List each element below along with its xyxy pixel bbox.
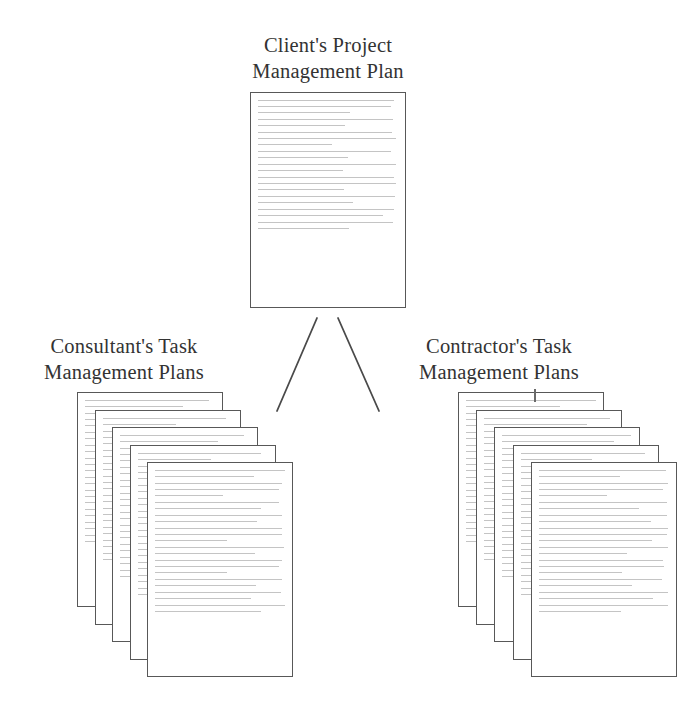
text-line xyxy=(539,502,667,503)
text-line xyxy=(155,502,279,503)
text-line xyxy=(484,418,610,419)
text-paragraph xyxy=(155,605,285,612)
text-paragraph xyxy=(539,502,669,509)
text-line xyxy=(258,100,394,101)
text-paragraph xyxy=(155,483,285,496)
text-line xyxy=(484,424,587,425)
text-line xyxy=(258,144,332,145)
text-line xyxy=(539,553,627,554)
text-paragraph xyxy=(539,560,669,573)
document-body xyxy=(155,470,285,669)
text-paragraph xyxy=(258,222,398,229)
text-line xyxy=(155,521,257,522)
text-paragraph xyxy=(466,400,596,407)
text-paragraph xyxy=(138,453,268,460)
text-paragraph xyxy=(521,453,651,460)
text-line xyxy=(155,528,282,529)
text-line xyxy=(258,215,383,216)
text-paragraph xyxy=(155,547,285,554)
document-body xyxy=(539,470,669,669)
text-line xyxy=(258,106,391,107)
text-line xyxy=(155,515,282,516)
text-line xyxy=(502,441,614,442)
text-line xyxy=(155,534,282,535)
text-paragraph xyxy=(539,470,669,477)
text-paragraph xyxy=(85,400,215,407)
text-line xyxy=(258,138,396,139)
text-line xyxy=(103,424,177,425)
text-line xyxy=(120,435,244,436)
text-line xyxy=(258,183,396,184)
text-line xyxy=(138,459,212,460)
text-line xyxy=(155,495,223,496)
document-client-project-management-plan xyxy=(250,92,406,308)
text-line xyxy=(155,598,251,599)
label-contractor-task-management-plans: Contractor's Task Management Plans xyxy=(380,333,618,385)
text-line xyxy=(155,560,282,561)
text-line xyxy=(539,579,663,580)
text-line xyxy=(155,547,284,548)
text-line xyxy=(466,406,560,407)
text-line xyxy=(120,441,218,442)
text-paragraph xyxy=(258,132,398,145)
text-line xyxy=(258,132,392,133)
text-line xyxy=(155,489,279,490)
text-line xyxy=(155,483,282,484)
text-line xyxy=(258,196,395,197)
text-line xyxy=(466,400,596,401)
text-line xyxy=(539,547,668,548)
stray-tick xyxy=(534,389,536,402)
text-line xyxy=(539,515,667,516)
label-consultant-task-management-plans: Consultant's Task Management Plans xyxy=(8,333,240,385)
text-line xyxy=(539,560,663,561)
text-line xyxy=(155,579,282,580)
text-line xyxy=(155,476,254,477)
text-paragraph xyxy=(539,579,669,586)
text-paragraph xyxy=(539,515,669,522)
text-line xyxy=(155,540,227,541)
text-line xyxy=(539,489,663,490)
text-paragraph xyxy=(155,470,285,477)
text-line xyxy=(539,566,665,567)
text-line xyxy=(155,508,261,509)
text-paragraph xyxy=(155,592,285,599)
text-paragraph xyxy=(258,151,398,158)
text-line xyxy=(539,572,623,573)
text-line xyxy=(155,585,256,586)
text-line xyxy=(155,611,261,612)
text-paragraph xyxy=(539,483,669,496)
text-paragraph xyxy=(155,579,285,586)
text-paragraph xyxy=(258,177,398,190)
text-line xyxy=(539,508,640,509)
document-body xyxy=(258,100,398,300)
text-line xyxy=(258,228,349,229)
text-paragraph xyxy=(258,196,398,203)
text-paragraph xyxy=(155,528,285,541)
text-paragraph xyxy=(258,209,398,216)
text-line xyxy=(155,605,285,606)
text-line xyxy=(155,572,227,573)
text-paragraph xyxy=(484,418,614,425)
text-line xyxy=(258,151,391,152)
text-paragraph xyxy=(155,502,285,509)
text-line xyxy=(258,119,393,120)
text-line xyxy=(258,202,353,203)
text-line xyxy=(258,164,396,165)
text-line xyxy=(258,222,393,223)
text-line xyxy=(258,177,394,178)
text-paragraph xyxy=(103,418,233,425)
text-paragraph xyxy=(258,119,398,126)
text-line xyxy=(539,495,608,496)
text-line xyxy=(539,528,668,529)
text-line xyxy=(539,540,652,541)
text-line xyxy=(539,592,668,593)
text-line xyxy=(85,400,209,401)
text-paragraph xyxy=(502,435,632,442)
text-line xyxy=(539,476,620,477)
text-paragraph xyxy=(120,435,250,442)
text-line xyxy=(258,157,348,158)
text-line xyxy=(155,470,285,471)
root-to-contractor xyxy=(338,318,379,411)
text-paragraph xyxy=(258,164,398,171)
